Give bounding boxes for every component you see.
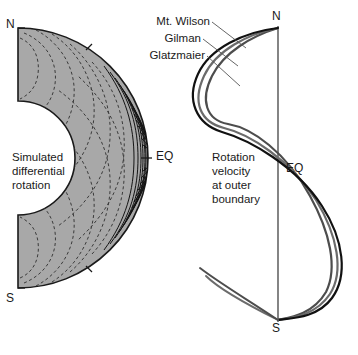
curve-mt-wilson-south-return — [200, 268, 278, 320]
left-north-pole-label: N — [6, 18, 15, 32]
left-south-pole-label: S — [6, 292, 14, 306]
right-equator-label: EQ — [286, 162, 303, 176]
left-equator-label: EQ — [156, 150, 173, 164]
right-north-pole-label: N — [272, 10, 281, 24]
legend-label-gilman: Gilman — [103, 32, 201, 46]
left-caption-line-2: differential — [12, 164, 65, 178]
legend-label-mt-wilson: Mt. Wilson — [112, 15, 210, 29]
left-caption-line-1: Simulated — [12, 150, 63, 164]
right-south-pole-label: S — [272, 322, 280, 336]
legend-label-glatzmaier: Glatzmaier — [107, 49, 205, 63]
right-caption-line-2: velocity — [212, 164, 250, 178]
figure-root: N S EQ Simulated differential rotation N… — [0, 0, 358, 355]
right-caption-line-4: boundary — [212, 192, 260, 206]
right-caption-line-1: Rotation — [212, 150, 255, 164]
right-caption-line-3: at outer — [212, 178, 251, 192]
left-caption-line-3: rotation — [12, 178, 50, 192]
